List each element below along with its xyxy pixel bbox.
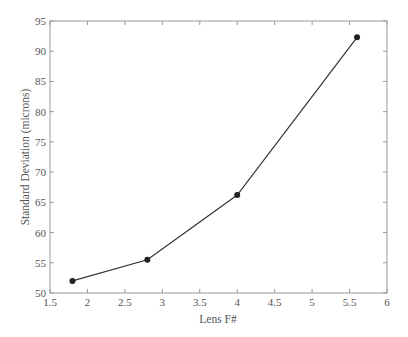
data-point-marker — [234, 192, 240, 198]
y-axis-ticks: 50556065707580859095 — [35, 15, 387, 299]
x-tick-label: 6 — [384, 296, 390, 308]
y-tick-label: 85 — [35, 75, 47, 87]
x-axis-ticks: 1.522.533.544.555.56 — [43, 21, 390, 308]
y-tick-label: 90 — [35, 45, 47, 57]
y-tick-label: 95 — [35, 15, 47, 27]
y-tick-label: 65 — [35, 196, 47, 208]
data-point-marker — [354, 34, 360, 40]
y-tick-label: 55 — [35, 257, 47, 269]
line-chart: 1.522.533.544.555.56 5055606570758085909… — [0, 0, 408, 337]
data-point-marker — [69, 278, 75, 284]
x-tick-label: 4 — [234, 296, 240, 308]
plot-border — [50, 21, 387, 293]
x-tick-label: 5 — [309, 296, 315, 308]
x-tick-label: 3.5 — [193, 296, 207, 308]
plot-frame — [50, 21, 387, 293]
data-series — [69, 34, 360, 284]
x-tick-label: 4.5 — [268, 296, 282, 308]
x-axis-label: Lens F# — [199, 313, 237, 325]
y-tick-label: 80 — [35, 106, 47, 118]
y-tick-label: 50 — [35, 287, 47, 299]
x-tick-label: 2 — [85, 296, 91, 308]
x-tick-label: 2.5 — [118, 296, 132, 308]
x-tick-label: 3 — [160, 296, 166, 308]
data-point-marker — [144, 257, 150, 263]
y-tick-label: 70 — [35, 166, 47, 178]
y-tick-label: 60 — [35, 227, 47, 239]
x-tick-label: 5.5 — [343, 296, 357, 308]
y-axis-label: Standard Deviation (microns) — [19, 88, 32, 225]
series-line — [72, 37, 357, 281]
y-tick-label: 75 — [35, 136, 47, 148]
